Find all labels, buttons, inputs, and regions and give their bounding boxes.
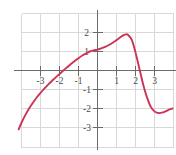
- x-tick-label: 1: [114, 76, 119, 86]
- y-tick-label: -2: [83, 104, 91, 114]
- x-tick-label: 3: [152, 76, 157, 86]
- x-tick-label: 2: [133, 76, 138, 86]
- coordinate-plane: -3 -2 -1 1 2 3 2 1 -1 -2 -3: [0, 0, 176, 155]
- y-tick-label: -3: [83, 123, 91, 133]
- x-tick-label: -1: [75, 76, 83, 86]
- x-tick-label: -3: [37, 76, 45, 86]
- y-tick-label: 2: [84, 28, 89, 38]
- y-tick-label: -1: [83, 85, 91, 95]
- graph-figure: -3 -2 -1 1 2 3 2 1 -1 -2 -3: [0, 0, 176, 155]
